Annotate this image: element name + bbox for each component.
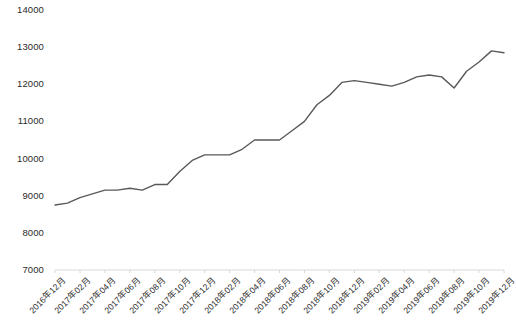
y-tick-label: 8000 <box>0 228 44 238</box>
y-tick-label: 10000 <box>0 154 44 164</box>
y-tick-label: 14000 <box>0 5 44 15</box>
y-tick-label: 11000 <box>0 116 44 126</box>
chart-series-group <box>55 51 504 205</box>
series-line-1 <box>55 51 504 205</box>
chart-axes <box>55 270 504 273</box>
y-tick-label: 13000 <box>0 42 44 52</box>
y-tick-label: 7000 <box>0 265 44 275</box>
y-tick-label: 9000 <box>0 191 44 201</box>
y-tick-label: 12000 <box>0 79 44 89</box>
